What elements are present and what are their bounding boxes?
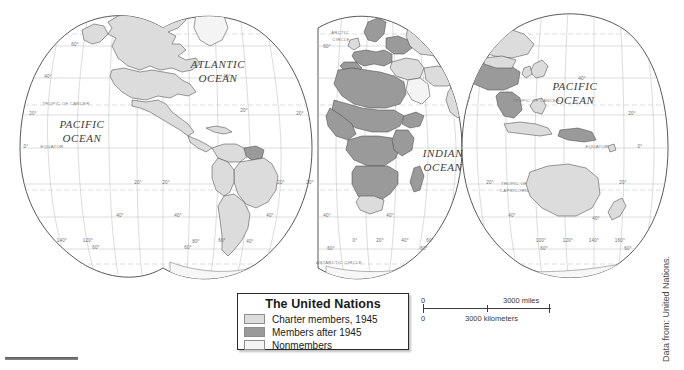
ocean-label-pacific-west-line0: PACIFIC <box>59 118 105 130</box>
graticule-label-lat-0-right: 0° <box>638 144 643 149</box>
special-label-equator-west: EQUATOR <box>41 144 64 149</box>
graticule-label-lat-20n-mid3: 20° <box>296 111 304 116</box>
graticule-label-lat-60s-right2: 60° <box>540 246 548 251</box>
graticule-label-lat-60n-left: 60° <box>71 42 79 47</box>
scale-miles-max: 3000 miles <box>503 296 539 305</box>
world-map-figure: PACIFICOCEANATLANTICOCEANINDIANOCEANPACI… <box>0 0 684 370</box>
graticule-label-lat-20s-left: 20° <box>134 180 142 185</box>
graticule-label-lon-80w: 80° <box>192 239 200 244</box>
ocean-label-indian-line1: OCEAN <box>423 161 462 173</box>
ocean-label-indian-line0: INDIAN <box>422 147 463 159</box>
graticule-label-lon-40e: 40° <box>401 238 409 243</box>
graticule-label-lat-60s-right: 60° <box>420 246 428 251</box>
graticule-label-lat-60s-left: 60° <box>92 245 100 250</box>
graticule-label-lat-40s-right: 40° <box>508 213 516 218</box>
graticule-label-lon-120e: 120° <box>563 238 573 243</box>
ocean-label-atlantic-line1: OCEAN <box>198 72 237 84</box>
special-label-tropic-capricorn-2: CAPRICORN <box>500 188 528 193</box>
graticule-label-lat-40s-mid2: 40° <box>266 213 274 218</box>
graticule-label-lat-20s-right2: 20° <box>619 180 627 185</box>
graticule-label-lat-0-left: 0° <box>24 144 29 149</box>
scale-tick-end <box>549 304 550 313</box>
ocean-label-pacific-west-line1: OCEAN <box>62 132 101 144</box>
graticule-label-lat-40s-left: 40° <box>116 213 124 218</box>
graticule-label-lat-40n-right: 40° <box>578 76 586 81</box>
graticule-label-lon-40w: 40° <box>246 239 254 244</box>
graticule-label-lon-60e: 60° <box>426 238 434 243</box>
graticule-label-lat-40n-left: 40° <box>44 74 52 79</box>
scale-tick-mid <box>487 305 488 312</box>
legend-swatch-charter-members <box>244 314 265 324</box>
legend-label-members-after: Members after 1945 <box>272 327 362 338</box>
graticule-label-lat-20s-mid: 20° <box>162 180 170 185</box>
graticule-label-lat-20n-left: 20° <box>29 111 37 116</box>
special-label-equator-east: EQUATOR <box>586 144 609 149</box>
legend-items: Charter members, 1945Members after 1945N… <box>238 313 408 351</box>
legend-row-nonmembers: Nonmembers <box>244 339 408 351</box>
graticule-label-lat-20n-right: 20° <box>628 111 636 116</box>
special-label-arctic-circle-2: CIRCLE <box>332 37 349 42</box>
special-label-tropic-capricorn-1: TROPIC OF <box>501 181 527 186</box>
graticule-label-lat-40s-mid3: 40° <box>323 213 331 218</box>
graticule-label-lat-60s-right3: 60° <box>624 246 632 251</box>
legend-label-nonmembers: Nonmembers <box>272 340 332 351</box>
graticule-label-lat-60s-mid: 60° <box>184 245 192 250</box>
special-label-tropic-cancer-1: TROPIC OF CANCER <box>42 101 89 106</box>
bottom-divider-rule <box>5 357 78 360</box>
map-legend: The United Nations Charter members, 1945… <box>237 293 409 350</box>
graticule-label-lat-40s-mid: 40° <box>174 213 182 218</box>
graticule-label-lon-120w: 120° <box>83 238 93 243</box>
graticule-label-lat-20s-right: 20° <box>306 180 314 185</box>
special-label-antarctic-circle: ANTARCTIC CIRCLE <box>316 260 362 265</box>
ocean-label-atlantic-line0: ATLANTIC <box>190 58 246 70</box>
legend-swatch-members-after <box>244 327 265 337</box>
scale-km-zero: 0 <box>421 314 425 323</box>
graticule-label-lat-20s-mid2: 20° <box>277 180 285 185</box>
graticule-label-lon-140e: 140° <box>589 238 599 243</box>
graticule-label-lon-60w: 60° <box>218 238 226 243</box>
graticule-label-lon-20e: 20° <box>376 238 384 243</box>
special-label-tropic-cancer-2: TROPIC OF CANCER <box>512 98 559 103</box>
graticule-label-lat-20n-mid: 20° <box>240 108 248 113</box>
ocean-label-pacific-east-line0: PACIFIC <box>552 80 598 92</box>
graticule-label-lat-40n-mid: 40° <box>223 74 231 79</box>
graticule-label-lat-60n-mid: 60° <box>323 44 331 49</box>
graticule-label-lat-60s-mid2: 60° <box>327 246 335 251</box>
source-credit: Data from: United Nations. <box>661 350 684 362</box>
graticule-label-lat-40s-mid4: 40° <box>386 213 394 218</box>
ocean-label-pacific-east-line1: OCEAN <box>555 94 594 106</box>
scale-tick-start <box>423 304 424 313</box>
scale-km-max: 3000 kilometers <box>465 314 518 323</box>
graticule-label-lon-100e: 100° <box>536 238 546 243</box>
map-scale-bar: 0 3000 miles 0 3000 kilometers <box>421 296 573 328</box>
legend-label-charter-members: Charter members, 1945 <box>272 314 378 325</box>
graticule-label-lon-160e: 160° <box>615 238 625 243</box>
legend-row-charter-members: Charter members, 1945 <box>244 313 408 325</box>
graticule-label-lat-20n-mid4: 20° <box>486 180 494 185</box>
legend-swatch-nonmembers <box>244 340 265 350</box>
graticule-label-lat-40s-right2: 40° <box>592 216 600 221</box>
graticule-label-lon-0: 0° <box>353 238 358 243</box>
graticule-label-lon-140w: 140° <box>57 238 67 243</box>
legend-title: The United Nations <box>238 294 408 313</box>
special-label-arctic-circle-1: ARCTIC <box>331 30 349 35</box>
legend-row-members-after: Members after 1945 <box>244 326 408 338</box>
